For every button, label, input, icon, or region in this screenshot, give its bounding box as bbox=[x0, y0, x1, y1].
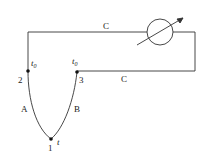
node-2-number: 2 bbox=[18, 75, 23, 85]
conductor-a bbox=[28, 71, 51, 139]
node-2-dot bbox=[26, 69, 30, 73]
wire-top-left bbox=[28, 32, 147, 71]
node-1-temp: t bbox=[57, 137, 60, 147]
node-3-number: 3 bbox=[79, 75, 84, 85]
node-3-dot bbox=[75, 70, 79, 74]
node-1-dot bbox=[49, 137, 53, 141]
wire-top-label: C bbox=[103, 21, 109, 31]
wire-top-right bbox=[77, 32, 195, 71]
node-1-number: 1 bbox=[48, 143, 53, 153]
node-3-temp: t0 bbox=[72, 56, 78, 67]
thermocouple-diagram: C C A B 2 3 1 t0 t0 t bbox=[0, 0, 212, 166]
variable-meter-icon bbox=[137, 18, 183, 45]
conductor-b-label: B bbox=[74, 104, 80, 114]
wire-bottom-label: C bbox=[121, 74, 127, 84]
conductor-a-label: A bbox=[21, 104, 28, 114]
node-2-temp: t0 bbox=[31, 58, 37, 69]
